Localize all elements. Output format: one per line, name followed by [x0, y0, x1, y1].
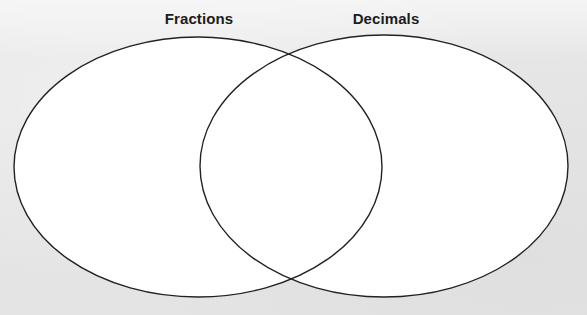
- fractions-set-label: Fractions: [165, 10, 233, 27]
- decimals-set-label: Decimals: [353, 10, 420, 27]
- decimals-set-fill: [200, 35, 568, 297]
- venn-diagram: [0, 0, 587, 315]
